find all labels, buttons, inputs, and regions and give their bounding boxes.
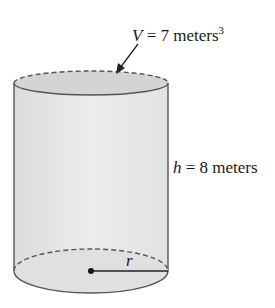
height-label: h = 8 meters (173, 158, 258, 177)
volume-label: V = 7 meters3 (132, 24, 225, 45)
cylinder-diagram: r V = 7 meters3 h = 8 meters (0, 0, 275, 308)
radius-label: r (126, 251, 133, 270)
